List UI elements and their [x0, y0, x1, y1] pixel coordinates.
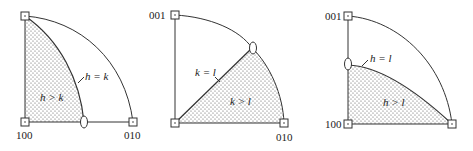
pole-label-001: 001 [149, 9, 166, 21]
pole-label-001: 001 [325, 10, 342, 22]
pole-ellipse [81, 116, 88, 128]
pole-dot [24, 121, 26, 123]
stereographic-triangles-figure: 100 010 h = k h > k 001 010 k = l k > l [0, 0, 473, 151]
pole-ellipse [250, 42, 257, 54]
panel-3: 001 100 h = l h > l [325, 10, 456, 130]
pole-ellipse [345, 58, 352, 70]
panel-1: 100 010 h = k h > k [16, 12, 141, 141]
pole-label-100: 100 [16, 129, 33, 141]
pole-dot [347, 15, 349, 17]
panel-2: 001 010 k = l k > l [149, 9, 293, 143]
pole-label-100: 100 [325, 118, 342, 130]
boundary-label: h = k [85, 70, 109, 82]
pole-dot [132, 121, 134, 123]
boundary-label: k = l [195, 66, 216, 78]
region-label: h > k [40, 91, 64, 103]
label-leader [78, 77, 84, 83]
pole-dot [347, 123, 349, 125]
shaded-region-k-gt-l [175, 48, 284, 123]
region-label: h > l [383, 96, 404, 108]
pole-label-010: 010 [124, 129, 141, 141]
boundary-label: h = l [370, 52, 391, 64]
pole-dot [451, 123, 453, 125]
label-leader [362, 60, 368, 66]
shaded-region-h-gt-l [348, 65, 452, 124]
pole-dot [174, 122, 176, 124]
pole-label-010: 010 [276, 131, 293, 143]
pole-dot [174, 14, 176, 16]
pole-dot [283, 122, 285, 124]
region-label: k > l [230, 95, 251, 107]
pole-dot [24, 15, 26, 17]
shaded-region-h-gt-k [25, 16, 84, 122]
